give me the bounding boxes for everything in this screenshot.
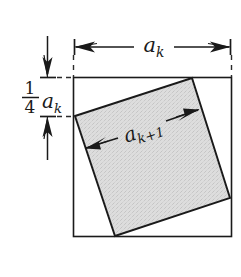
label-offset-variable-base: a — [42, 89, 54, 113]
figure-canvas: ak 1 4 ak ak+1 — [0, 0, 241, 277]
label-fraction-numerator: 1 — [25, 78, 36, 98]
label-fraction-denominator: 4 — [25, 97, 36, 117]
label-outer-side-base: a — [144, 33, 157, 57]
label-offset-variable-subscript: k — [54, 101, 62, 116]
label-outer-side-subscript: k — [156, 44, 164, 60]
geometry-figure: ak 1 4 ak ak+1 — [0, 0, 241, 277]
